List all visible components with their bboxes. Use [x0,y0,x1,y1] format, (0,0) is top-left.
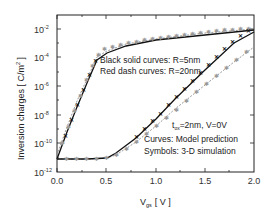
svg-text:✱: ✱ [66,124,71,130]
svg-text:✕: ✕ [75,102,80,108]
x-axis-label: Vgs[ V ] [140,197,171,208]
svg-text:✕: ✕ [246,28,251,34]
svg-text:✱: ✱ [174,33,179,39]
svg-text:✕: ✕ [222,46,227,52]
svg-text:✕: ✕ [238,33,243,39]
svg-text:✱: ✱ [182,32,187,38]
x-tick-label: 1.0 [150,176,163,186]
svg-text:✱: ✱ [74,156,79,162]
svg-text:✱: ✱ [244,49,249,55]
svg-text:✱: ✱ [72,108,77,114]
svg-text:✱: ✱ [174,107,179,113]
svg-text:✱: ✱ [126,40,131,46]
svg-text:✕: ✕ [166,102,171,108]
svg-text:10-12: 10-12 [34,167,52,178]
svg-text:✱: ✱ [204,81,209,87]
svg-text:10-4: 10-4 [34,52,49,63]
svg-text:✱: ✱ [238,26,243,32]
svg-text:✱: ✱ [194,89,199,95]
svg-text:✕: ✕ [63,133,68,139]
svg-text:✕: ✕ [214,54,219,60]
svg-text:✕: ✕ [87,72,92,78]
y-axis-label: Inversion charges [ C/m2 ] [15,57,26,160]
x-tick-label: 0.5 [100,176,113,186]
svg-text:✱: ✱ [134,39,139,45]
svg-text:✱: ✱ [114,152,119,158]
x-tick-label: 2.0 [248,176,261,186]
svg-text:✱: ✱ [84,156,89,162]
annotation-red-dash: Red dash curves: R=20nm [100,66,201,76]
y-tick-labels: 10-2 10-4 10-6 10-8 10-10 10-12 [34,24,52,178]
svg-text:10-2: 10-2 [34,24,49,35]
x-tick-label: 1.5 [199,176,212,186]
svg-text:✱: ✱ [110,44,115,50]
svg-text:✱: ✱ [94,156,99,162]
svg-text:✕: ✕ [93,58,98,64]
svg-text:✱: ✱ [78,93,83,99]
annotation-curves: Curves: Model prediction [144,134,238,144]
annotation-tox: tox=2nm, V=0V [172,120,227,131]
svg-text:✱: ✱ [104,155,109,161]
svg-text:✕: ✕ [230,39,235,45]
svg-text:✕: ✕ [150,118,155,124]
annotation-symbols: Symbols: 3-D simulation [144,146,236,156]
svg-text:✱: ✱ [166,34,171,40]
svg-text:✱: ✱ [150,36,155,42]
svg-text:✱: ✱ [158,35,163,41]
svg-text:✕: ✕ [142,126,147,132]
svg-text:✱: ✱ [234,57,239,63]
svg-text:✕: ✕ [81,87,86,93]
svg-text:10-10: 10-10 [34,138,52,149]
svg-text:✕: ✕ [174,94,179,100]
svg-text:✱: ✱ [214,73,219,79]
svg-text:✱: ✱ [102,46,107,52]
svg-text:✱: ✱ [124,146,129,152]
svg-text:✱: ✱ [164,115,169,121]
svg-text:✕: ✕ [190,78,195,84]
svg-text:10-8: 10-8 [34,110,49,121]
svg-text:✱: ✱ [230,27,235,33]
svg-text:✱: ✱ [206,29,211,35]
svg-text:✱: ✱ [60,140,65,146]
svg-text:✕: ✕ [182,86,187,92]
svg-text:✱: ✱ [190,31,195,37]
svg-text:✱: ✱ [198,30,203,36]
svg-text:✱: ✱ [64,156,69,162]
svg-text:✕: ✕ [206,62,211,68]
svg-text:✕: ✕ [134,134,139,140]
svg-text:✱: ✱ [214,28,219,34]
chart: 0.0 0.5 1.0 1.5 2.0 10-2 10-4 10-6 10-8 … [0,0,273,216]
svg-text:✕: ✕ [158,111,163,117]
svg-text:✱: ✱ [118,42,123,48]
svg-text:✱: ✱ [222,27,227,33]
annotation-black-solid: Black solid curves: R=5nm [100,55,200,65]
svg-text:✕: ✕ [69,117,74,123]
x-tick-label: 0.0 [51,176,64,186]
svg-text:10-6: 10-6 [34,81,49,92]
svg-text:✱: ✱ [184,98,189,104]
svg-text:✱: ✱ [142,37,147,43]
svg-text:✱: ✱ [224,65,229,71]
